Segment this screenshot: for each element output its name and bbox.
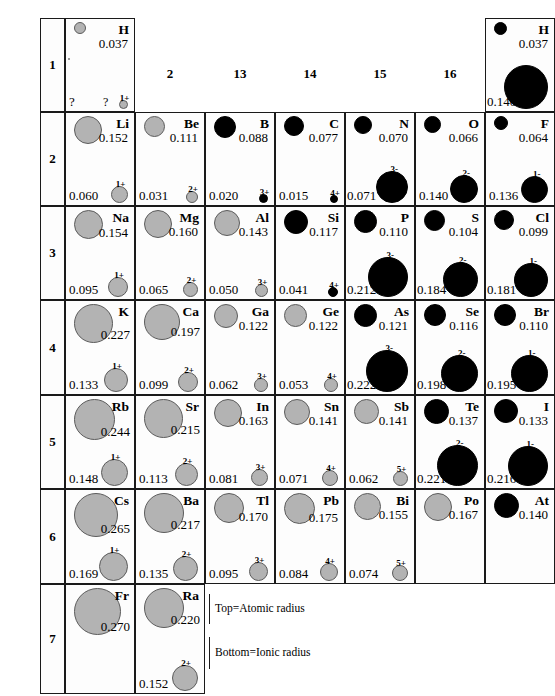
ionic-radius-value-As: 0.222 (347, 377, 376, 393)
element-cell-Te[interactable]: Te0.1372-0.221 (415, 395, 485, 489)
ion-circle-Ca (178, 372, 198, 392)
atomic-radius-value-N: 0.070 (379, 130, 408, 146)
atomic-radius-group: Cs0.265 (66, 490, 134, 537)
element-cell-Bi[interactable]: Bi0.1555+0.074 (345, 489, 415, 584)
ion-charge-As: 3- (386, 343, 394, 353)
ionic-radius-value-Pb: 0.084 (279, 566, 308, 582)
atomic-radius-value-Bi: 0.155 (379, 507, 408, 523)
element-cell-F[interactable]: F0.0641-0.136 (485, 112, 555, 206)
ionic-radius-group: 3-0.071 (346, 159, 414, 205)
element-cell-Sb[interactable]: Sb0.1415+0.062 (345, 395, 415, 489)
element-cell-Sn[interactable]: Sn0.1414+0.071 (275, 395, 345, 489)
element-cell-S[interactable]: S0.1042-0.184 (415, 206, 485, 300)
atomic-radius-group: H0.037 (66, 19, 134, 65)
element-cell-Cs[interactable]: Cs0.2651+0.169 (65, 489, 135, 584)
ion-circle-Br (511, 355, 548, 392)
element-cell-Tl[interactable]: Tl0.1703+0.095 (205, 489, 275, 584)
element-cell-P[interactable]: P0.1103-0.212 (345, 206, 415, 300)
ionic-radius-group: 2-0.140 (416, 159, 484, 205)
element-cell-Sr[interactable]: Sr0.2152+0.113 (135, 395, 205, 489)
element-cell-H[interactable]: H0.0370.140 (485, 18, 555, 112)
ion-circle-N (376, 171, 408, 203)
element-cell-Rb[interactable]: Rb0.2441+0.148 (65, 395, 135, 489)
element-cell-Be[interactable]: Be0.1112+0.031 (135, 112, 205, 206)
ionic-radius-value-Ra: 0.152 (139, 676, 168, 692)
ionic-radius-value-F: 0.136 (489, 188, 518, 204)
ion-charge-N: 3- (391, 164, 399, 174)
atomic-radius-group: K0.227 (66, 301, 134, 348)
element-cell-As[interactable]: As0.1213-0.222 (345, 300, 415, 395)
ionic-radius-group (66, 639, 134, 693)
atom-circle-O (424, 116, 441, 133)
element-cell-Li[interactable]: Li0.1521+0.060 (65, 112, 135, 206)
element-cell-H[interactable]: H0.0371+? (65, 18, 135, 112)
ion-charge-I: 1- (527, 439, 535, 449)
element-cell-Se[interactable]: Se0.1162-0.198 (415, 300, 485, 395)
element-cell-Na[interactable]: Na0.1541+0.095 (65, 206, 135, 300)
ion-circle-O (450, 175, 478, 203)
ionic-radius-group: 1+0.148 (66, 442, 134, 488)
atomic-radius-group: Ge0.122 (276, 301, 344, 348)
ion-circle-Na (108, 277, 128, 297)
element-cell-Ga[interactable]: Ga0.1223+0.062 (205, 300, 275, 395)
ion-charge-Sr: 2+ (183, 456, 193, 466)
element-cell-N[interactable]: N0.0703-0.071 (345, 112, 415, 206)
element-cell-C[interactable]: C0.0774+0.015 (275, 112, 345, 206)
element-cell-Al[interactable]: Al0.1433+0.050 (205, 206, 275, 300)
ionic-radius-group: 2+0.031 (136, 159, 204, 205)
element-cell-B[interactable]: B0.0883+0.020 (205, 112, 275, 206)
ion-charge-K: 1+ (112, 361, 122, 371)
ion-circle-Ra (172, 665, 198, 691)
ionic-radius-value-Ca: 0.099 (139, 377, 168, 393)
atomic-radius-value-Na: 0.154 (99, 225, 128, 241)
element-cell-Pb[interactable]: Pb0.1754+0.084 (275, 489, 345, 584)
atomic-radius-value-Te: 0.137 (449, 413, 478, 429)
atomic-radius-value-P: 0.110 (379, 224, 408, 240)
element-cell-K[interactable]: K0.2271+0.133 (65, 300, 135, 395)
element-cell-Ca[interactable]: Ca0.1972+0.099 (135, 300, 205, 395)
legend-bracket-top (209, 594, 210, 624)
element-cell-Br[interactable]: Br0.1101-0.195 (485, 300, 555, 395)
element-cell-Si[interactable]: Si0.1174+0.041 (275, 206, 345, 300)
element-symbol-Pb: Pb (323, 493, 339, 509)
atom-circle-Br (494, 304, 516, 326)
period-label-6: 6 (40, 489, 65, 584)
ionic-radius-group: 0.140 (486, 65, 554, 111)
atomic-radius-group: Ca0.197 (136, 301, 204, 348)
atomic-radius-group: Si0.117 (276, 207, 344, 253)
ionic-radius-group: 3+0.095 (206, 537, 274, 584)
ionic-radius-value-Br: 0.195 (487, 377, 516, 393)
atomic-radius-group: Ra0.220 (136, 585, 204, 639)
atomic-radius-value-Sr: 0.215 (171, 422, 200, 438)
period-label-2: 2 (40, 112, 65, 206)
element-cell-Ba[interactable]: Ba0.2172+0.135 (135, 489, 205, 584)
ionic-radius-value-K: 0.133 (69, 377, 98, 393)
element-cell-Cl[interactable]: Cl0.0991-0.181 (485, 206, 555, 300)
element-cell-Mg[interactable]: Mg0.1602+0.065 (135, 206, 205, 300)
element-cell-O[interactable]: O0.0662-0.140 (415, 112, 485, 206)
element-cell-Ge[interactable]: Ge0.1224+0.053 (275, 300, 345, 395)
ion-circle-Cs (99, 552, 128, 581)
atom-circle-Bi (354, 493, 381, 520)
ion-charge-Li: 1+ (116, 179, 126, 189)
atomic-radius-value-Cl: 0.099 (519, 224, 548, 240)
atomic-radius-value-Br: 0.110 (519, 318, 548, 334)
atom-circle-B (214, 116, 236, 138)
atom-circle-S (424, 210, 445, 231)
ion-charge-Ba: 2+ (182, 549, 192, 559)
element-cell-In[interactable]: In0.1633+0.081 (205, 395, 275, 489)
ion-charge-Cs: 1+ (110, 545, 120, 555)
ionic-radius-value-Te: 0.221 (417, 471, 446, 487)
element-cell-I[interactable]: I0.1331-0.216 (485, 395, 555, 489)
atomic-radius-value-Sn: 0.141 (309, 413, 338, 429)
atomic-radius-group: Ga0.122 (206, 301, 274, 348)
ion-charge-Ge: 4+ (327, 371, 337, 381)
element-cell-Po[interactable]: Po0.167 (415, 489, 485, 584)
ion-circle-Ba (173, 556, 198, 581)
atom-circle-Sb (354, 399, 379, 424)
element-cell-Fr[interactable]: Fr0.270 (65, 584, 135, 694)
element-cell-At[interactable]: At0.140 (485, 489, 555, 584)
atomic-radius-value-Li: 0.152 (99, 130, 128, 146)
element-cell-Ra[interactable]: Ra0.2202+0.152 (135, 584, 205, 694)
